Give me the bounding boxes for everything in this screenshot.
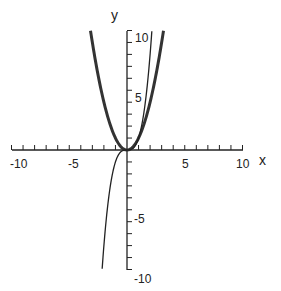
x-tick-label-neg5: -5 (68, 157, 79, 171)
y-tick-label-10: 10 (135, 31, 149, 45)
y-axis-label: y (111, 7, 118, 23)
y-tick-label-5: 5 (135, 91, 142, 105)
x-tick-label-5: 5 (182, 157, 189, 171)
y-tick-label-neg5: -5 (134, 212, 145, 226)
x-axis-label: x (259, 152, 266, 168)
x-tick-label-10: 10 (236, 157, 250, 171)
function-plot: -10 -5 5 10 x 10 5 -5 -10 y (0, 0, 281, 291)
y-tick-label-neg10: -10 (134, 272, 152, 286)
x-tick-label-neg10: -10 (10, 157, 28, 171)
